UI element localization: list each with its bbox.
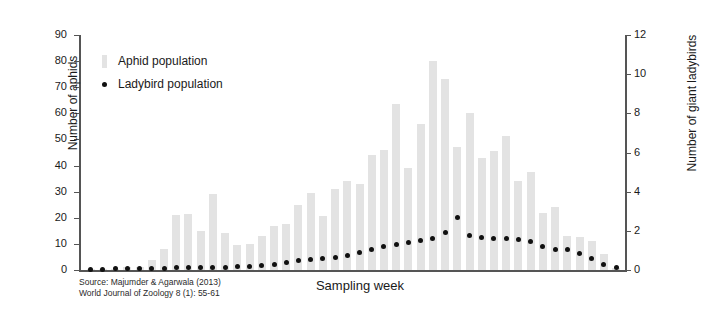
bar-aphid bbox=[441, 79, 449, 270]
dot-ladybird bbox=[272, 262, 277, 267]
dot-ladybird bbox=[259, 263, 264, 268]
y-tick-label-right: 4 bbox=[634, 186, 674, 197]
bar-aphid bbox=[453, 147, 461, 270]
y-axis-right-title: Number of giant ladybirds bbox=[685, 3, 699, 203]
bar-aphid bbox=[319, 216, 327, 270]
dot-ladybird bbox=[614, 265, 619, 270]
bar-aphid bbox=[368, 155, 376, 270]
chart-figure: 0102030405060708090 024681012 Number of … bbox=[0, 0, 707, 310]
dot-ladybird bbox=[308, 257, 313, 262]
bar-aphid bbox=[172, 215, 180, 270]
y-tick-label-left: 20 bbox=[27, 212, 67, 223]
dot-ladybird bbox=[443, 230, 448, 235]
dot-ladybird bbox=[357, 250, 362, 255]
bar-aphid bbox=[417, 124, 425, 270]
y-tick-label-left: 10 bbox=[27, 238, 67, 249]
dot-ladybird bbox=[345, 253, 350, 258]
y-tick-label-left: 60 bbox=[27, 107, 67, 118]
dot-ladybird bbox=[137, 266, 142, 271]
y-tick-right bbox=[626, 192, 631, 193]
bar-aphid bbox=[184, 214, 192, 270]
dot-ladybird bbox=[247, 264, 252, 269]
dot-ladybird bbox=[174, 265, 179, 270]
y-tick-label-left: 30 bbox=[27, 186, 67, 197]
y-tick-label-left: 80 bbox=[27, 55, 67, 66]
y-tick-label-right: 10 bbox=[634, 68, 674, 79]
bar-aphid bbox=[404, 168, 412, 270]
x-axis-line bbox=[79, 270, 627, 272]
bar-aphid bbox=[356, 184, 364, 270]
y-tick-left bbox=[74, 244, 79, 245]
bar-aphid bbox=[490, 151, 498, 270]
bar-aphid bbox=[502, 136, 510, 270]
y-tick-right bbox=[626, 270, 631, 271]
y-tick-label-left: 0 bbox=[27, 264, 67, 275]
dot-ladybird bbox=[394, 242, 399, 247]
dot-ladybird bbox=[565, 247, 570, 252]
dot-ladybird bbox=[198, 265, 203, 270]
bar-aphid bbox=[209, 194, 217, 270]
source-line-1: Source: Majumder & Agarwala (2013) bbox=[79, 277, 221, 288]
y-tick-label-right: 12 bbox=[634, 29, 674, 40]
y-tick-left bbox=[74, 270, 79, 271]
source-note: Source: Majumder & Agarwala (2013) World… bbox=[79, 277, 221, 300]
y-tick-label-right: 2 bbox=[634, 225, 674, 236]
y-tick-right bbox=[626, 231, 631, 232]
y-tick-right bbox=[626, 153, 631, 154]
y-tick-label-right: 6 bbox=[634, 147, 674, 158]
dot-ladybird bbox=[296, 258, 301, 263]
bar-aphid bbox=[478, 158, 486, 270]
dot-ladybird bbox=[223, 265, 228, 270]
y-tick-right bbox=[626, 113, 631, 114]
dot-ladybird bbox=[553, 247, 558, 252]
dot-ladybird bbox=[455, 215, 460, 220]
dot-ladybird bbox=[333, 255, 338, 260]
dot-ladybird bbox=[406, 240, 411, 245]
x-axis-title: Sampling week bbox=[250, 278, 470, 293]
plot-area bbox=[80, 35, 625, 270]
bar-aphid bbox=[539, 213, 547, 270]
dot-ladybird bbox=[88, 267, 93, 272]
source-line-2: World Journal of Zoology 8 (1): 55-61 bbox=[79, 288, 221, 299]
y-axis-left-title: Number of aphids bbox=[66, 23, 80, 183]
dot-ladybird bbox=[589, 256, 594, 261]
dot-ladybird bbox=[125, 266, 130, 271]
y-tick-label-left: 90 bbox=[27, 29, 67, 40]
y-tick-left bbox=[74, 192, 79, 193]
dot-ladybird bbox=[162, 266, 167, 271]
y-tick-left bbox=[74, 218, 79, 219]
dot-ladybird bbox=[504, 236, 509, 241]
bar-aphid bbox=[551, 207, 559, 270]
y-tick-right bbox=[626, 74, 631, 75]
dot-ladybird bbox=[577, 251, 582, 256]
bar-aphid bbox=[466, 113, 474, 270]
y-tick-label-right: 8 bbox=[634, 107, 674, 118]
dot-ladybird bbox=[149, 266, 154, 271]
bar-aphid bbox=[380, 150, 388, 270]
y-tick-right bbox=[626, 35, 631, 36]
y-tick-label-left: 70 bbox=[27, 81, 67, 92]
dot-ladybird bbox=[284, 260, 289, 265]
y-tick-label-right: 0 bbox=[634, 264, 674, 275]
y-tick-label-left: 50 bbox=[27, 133, 67, 144]
y-tick-label-left: 40 bbox=[27, 160, 67, 171]
bar-aphid bbox=[514, 181, 522, 270]
bar-aphid bbox=[563, 236, 571, 270]
bar-aphid bbox=[527, 172, 535, 270]
